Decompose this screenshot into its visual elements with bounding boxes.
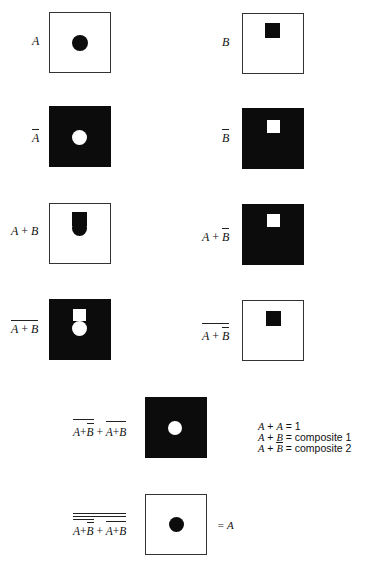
label-not-B: B [222,129,229,145]
label-text: B [222,327,229,343]
label-text: A [32,129,39,145]
label-text: B [119,525,126,537]
label-text: A [73,426,80,438]
white-square-icon [267,214,280,227]
plus-sign: + [96,525,103,537]
double-overbar-group: A+B + A+B [73,516,126,538]
plus-sign: + [21,322,28,336]
legend-row: A + B = composite 2 [258,443,351,454]
label-A-plus-not-B: A + B [202,228,229,244]
panel-A [49,12,111,73]
label-text: A [202,329,209,343]
label-not-A: A [32,129,39,145]
label-not-A-plus-not-B: A + B [202,323,229,343]
label-A: A [32,34,39,48]
label-text: A [11,322,18,336]
overbar-group: A+B [106,521,127,538]
result-text: = A [217,519,234,531]
overbar-group: A + B [11,320,38,336]
panel-A-plus-not-B [242,204,304,265]
plus-sign: + [212,230,219,244]
label-text: A [106,525,113,537]
label-text: A [73,525,80,537]
overbar-group: A + B [202,323,229,343]
legend-op: + [264,442,276,454]
overbar-group: A+B [73,519,94,538]
label-final: A+B + A+B [73,516,126,538]
label-text: B [31,224,38,238]
panel-not-A [49,106,111,167]
white-circle-icon [72,130,87,145]
panel-not-A-plus-B [49,299,111,360]
label-text: B [119,426,126,438]
label-text: A [202,230,209,244]
legend-eq: = [283,442,295,454]
black-circle-icon [72,35,88,51]
label-composite-sum: A+B + A+B [73,419,126,439]
black-square-icon [266,311,281,326]
panel-A-plus-B [49,203,111,264]
black-circle-icon [72,221,87,236]
label-text: B [87,423,94,439]
panel-not-B [242,108,304,169]
panel-composite-sum [145,397,207,458]
white-circle-icon [168,421,182,435]
overbar-group: A+B [73,419,94,439]
plus-sign: + [96,426,103,438]
panel-final [145,494,207,555]
label-text: B [87,522,94,538]
label-not-A-plus-B: A + B [11,320,38,336]
label-text: A [11,224,18,238]
label-text: B [31,322,38,336]
label-B: B [222,35,229,49]
legend: A + A = 1 A + B = composite 1 A + B = co… [258,421,351,454]
legend-rhs: composite 2 [295,442,352,454]
white-circle-icon [72,321,87,336]
label-text: B [222,228,229,244]
plus-sign: + [21,224,28,238]
black-circle-icon [169,517,184,532]
label-text: A [106,426,113,438]
label-text: B [222,129,229,145]
label-text: B [222,35,229,49]
result-equals-A: = A [217,518,234,532]
black-square-icon [265,23,280,38]
plus-sign: + [212,329,219,343]
panel-not-A-plus-not-B [242,300,304,361]
label-text: A [32,34,39,48]
overbar-group: A+B [106,421,127,439]
white-square-icon [267,120,280,133]
white-square-icon [73,309,86,321]
label-A-plus-B: A + B [11,224,38,238]
panel-B [242,13,304,74]
